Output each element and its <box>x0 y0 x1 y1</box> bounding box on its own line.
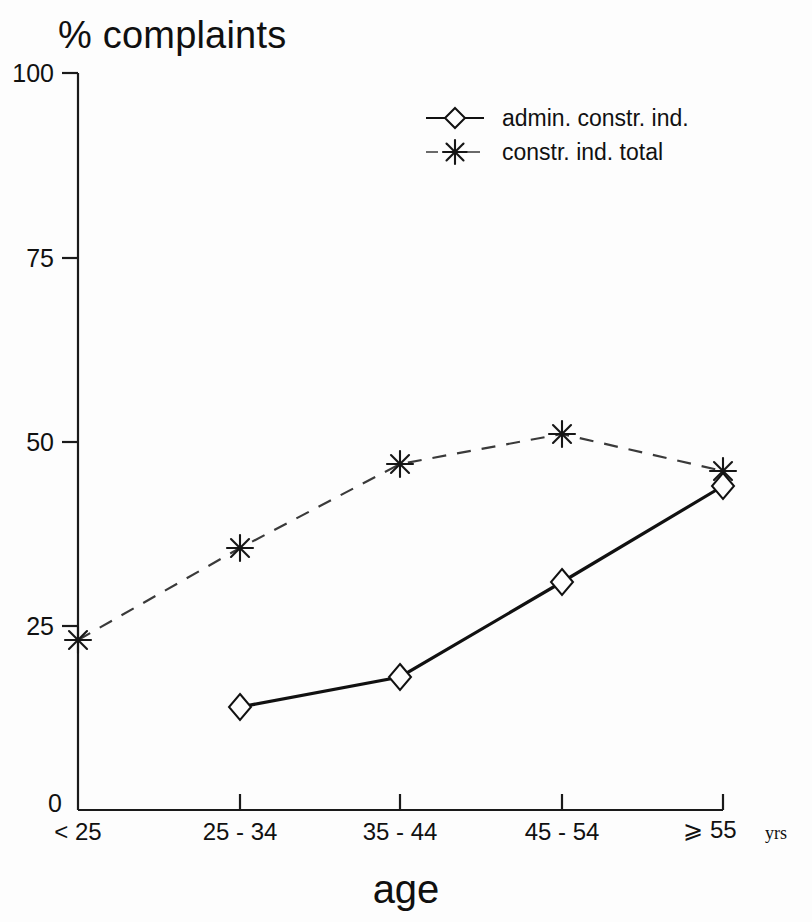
y-tick-label-0: 0 <box>0 791 62 816</box>
legend-item-constr-ind-total: constr. ind. total <box>424 135 689 169</box>
x-axis-title: age <box>0 869 812 909</box>
x-tick-unit-label: yrs <box>765 824 787 842</box>
chart-legend: admin. constr. ind. constr. ind. total <box>424 101 689 169</box>
series-markers-admin-constr-ind <box>229 473 734 720</box>
chart-page: % complaints <box>0 0 812 922</box>
y-tick-label-75: 75 <box>0 246 54 271</box>
y-tick-label-25: 25 <box>0 614 54 639</box>
legend-label-constr-ind-total: constr. ind. total <box>486 141 663 164</box>
y-tick-label-100: 100 <box>0 61 54 86</box>
x-tick-label-35-44: 35 - 44 <box>340 820 460 844</box>
x-tick-label-45-54: 45 - 54 <box>502 820 622 844</box>
legend-item-admin-constr-ind: admin. constr. ind. <box>424 101 689 135</box>
x-tick-label-55-plus: ⩾ 55 <box>655 818 765 842</box>
x-axis-ticks <box>240 794 723 810</box>
x-tick-label-under-25: < 25 <box>18 820 138 844</box>
legend-label-admin-constr-ind: admin. constr. ind. <box>486 107 689 130</box>
y-axis-ticks <box>62 73 78 626</box>
y-tick-label-50: 50 <box>0 430 54 455</box>
series-line-admin-constr-ind <box>240 486 723 707</box>
plot-area <box>0 0 812 922</box>
x-tick-label-25-34: 25 - 34 <box>180 820 300 844</box>
diamond-marker-icon <box>424 104 486 132</box>
asterisk-marker-icon <box>424 138 486 166</box>
